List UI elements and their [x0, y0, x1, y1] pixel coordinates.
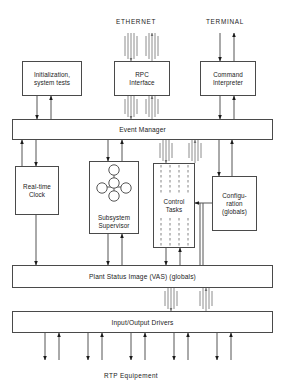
box-label: Command Interpreter: [213, 71, 243, 87]
supervisor-node-tree: [89, 161, 139, 211]
ethernet-label: ETHERNET: [116, 18, 156, 25]
box-label: Initialization, system tests: [34, 71, 70, 87]
box-rpc-interface[interactable]: RPC Interface: [114, 61, 170, 96]
rtp-equipment-caption: RTP Equipement: [104, 372, 158, 379]
bar-input-output-drivers[interactable]: Input/Output Drivers: [12, 311, 273, 333]
bar-plant-status-image[interactable]: Plant Status Image (VAS) (globals): [12, 265, 273, 288]
bar-label: Input/Output Drivers: [111, 319, 173, 326]
box-label: Configu- ration (globals): [222, 192, 247, 216]
bar-label: Event Manager: [119, 126, 166, 133]
box-initialization-system-tests[interactable]: Initialization, system tests: [22, 61, 82, 96]
architecture-diagram: ETHERNET TERMINAL Initialization, system…: [0, 0, 285, 390]
box-label: RPC Interface: [129, 71, 154, 87]
control-tasks-threads: [153, 163, 195, 248]
box-configuration-globals[interactable]: Configu- ration (globals): [212, 176, 257, 231]
terminal-label: TERMINAL: [206, 18, 244, 25]
bar-label: Plant Status Image (VAS) (globals): [89, 273, 196, 280]
bar-event-manager[interactable]: Event Manager: [12, 119, 273, 140]
box-command-interpreter[interactable]: Command Interpreter: [200, 61, 256, 96]
box-label: Real-time Clock: [23, 183, 51, 199]
box-real-time-clock[interactable]: Real-time Clock: [15, 166, 59, 215]
box-label: Subsystem Supervisor: [98, 214, 130, 230]
